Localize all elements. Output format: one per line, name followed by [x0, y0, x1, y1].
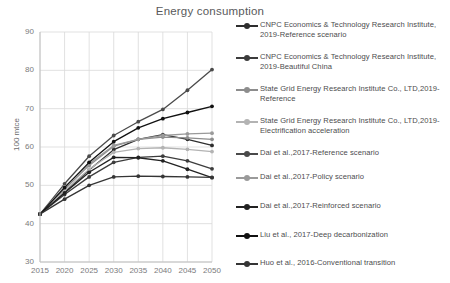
series-marker: [161, 159, 165, 163]
series-marker: [161, 134, 165, 138]
y-axis-tick-label: 80: [14, 65, 34, 74]
legend-item-label: Dai et al.,2017-Reference scenario: [258, 148, 379, 158]
legend-item[interactable]: CNPC Economics & Technology Research Ins…: [236, 20, 450, 40]
legend-line-marker-icon: [236, 85, 258, 96]
series-marker: [87, 160, 91, 164]
x-axis-tick-label: 2050: [197, 266, 227, 275]
series-marker: [210, 144, 214, 148]
legend-item[interactable]: CNPC Economics & Technology Research Ins…: [236, 52, 450, 72]
series-marker: [87, 175, 91, 179]
legend-item-label: CNPC Economics & Technology Research Ins…: [258, 52, 450, 72]
legend-item-label: Dai et al.,2017-Policy scenario: [258, 172, 364, 182]
legend-item[interactable]: Liu et al., 2017-Deep decarbonization: [236, 230, 450, 242]
series-marker: [186, 88, 190, 92]
series-marker: [112, 134, 116, 138]
legend-item-label: CNPC Economics & Technology Research Ins…: [258, 20, 450, 40]
legend-line-marker-icon: [236, 259, 258, 270]
legend-item-label: Dai et al.,2017-Reinforced scenario: [258, 201, 381, 211]
legend-item-label: Liu et al., 2017-Deep decarbonization: [258, 230, 388, 240]
y-axis-tick-label: 60: [14, 142, 34, 151]
y-axis-tick-label: 30: [14, 257, 34, 266]
series-marker: [161, 154, 165, 158]
series-marker: [136, 174, 140, 178]
series-marker: [186, 132, 190, 136]
series-line: [40, 133, 212, 214]
series-marker: [186, 147, 190, 151]
series-marker: [112, 175, 116, 179]
series-marker: [210, 167, 214, 171]
series-marker: [136, 137, 140, 141]
series-marker: [186, 167, 190, 171]
series-marker: [210, 104, 214, 108]
legend-line-marker-icon: [236, 173, 258, 184]
legend-line-marker-icon: [236, 53, 258, 64]
legend-line-marker-icon: [236, 21, 258, 32]
series-marker: [63, 191, 67, 195]
series-marker: [210, 175, 214, 179]
legend-item-label: State Grid Energy Research Institute Co.…: [258, 84, 450, 104]
series-marker: [210, 150, 214, 154]
series-marker: [87, 170, 91, 174]
y-axis-tick-label: 90: [14, 27, 34, 36]
y-axis-tick-label: 50: [14, 180, 34, 189]
series-marker: [210, 137, 214, 141]
legend-item-label: State Grid Energy Research Institute Co.…: [258, 116, 450, 136]
series-marker: [186, 136, 190, 140]
legend-item[interactable]: Dai et al.,2017-Policy scenario: [236, 172, 450, 184]
legend-item[interactable]: Dai et al.,2017-Reference scenario: [236, 148, 450, 160]
series-marker: [112, 140, 116, 144]
series-marker: [161, 175, 165, 179]
series-marker: [63, 197, 67, 201]
series-marker: [112, 150, 116, 154]
legend-line-marker-icon: [236, 231, 258, 242]
series-marker: [186, 111, 190, 115]
energy-consumption-chart: Energy consumption 100 mtce 304050607080…: [0, 0, 450, 283]
legend-item[interactable]: Huo et al., 2016-Conventional transition: [236, 258, 450, 270]
series-marker: [161, 146, 165, 150]
y-axis-tick-label: 70: [14, 104, 34, 113]
series-marker: [210, 131, 214, 135]
y-axis-tick-label: 40: [14, 219, 34, 228]
legend-item[interactable]: State Grid Energy Research Institute Co.…: [236, 84, 450, 104]
legend-item[interactable]: State Grid Energy Research Institute Co.…: [236, 116, 450, 136]
series-marker: [210, 68, 214, 72]
series-marker: [136, 156, 140, 160]
legend-item-label: Huo et al., 2016-Conventional transition: [258, 258, 395, 268]
series-marker: [136, 126, 140, 130]
series-marker: [161, 108, 165, 112]
series-marker: [136, 147, 140, 151]
series-marker: [112, 144, 116, 148]
legend-line-marker-icon: [236, 117, 258, 128]
series-marker: [63, 186, 67, 190]
series-marker: [87, 183, 91, 187]
series-marker: [136, 120, 140, 124]
series-marker: [161, 117, 165, 121]
legend-item[interactable]: Dai et al.,2017-Reinforced scenario: [236, 201, 450, 213]
series-marker: [112, 160, 116, 164]
legend-line-marker-icon: [236, 202, 258, 213]
chart-legend: CNPC Economics & Technology Research Ins…: [236, 20, 450, 278]
legend-line-marker-icon: [236, 149, 258, 160]
series-marker: [87, 154, 91, 158]
series-marker: [186, 175, 190, 179]
series-marker: [186, 159, 190, 163]
series-marker: [112, 155, 116, 159]
